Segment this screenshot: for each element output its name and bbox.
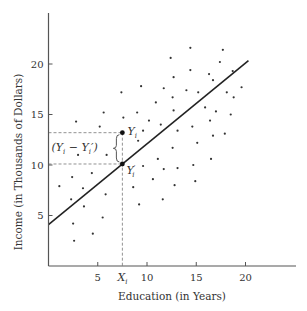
data-point: [58, 185, 60, 187]
y-tick-label: 10: [31, 160, 44, 171]
data-point: [176, 130, 178, 132]
data-point: [160, 124, 162, 126]
data-point: [155, 101, 157, 103]
data-point: [163, 87, 165, 89]
data-point: [82, 187, 84, 189]
data-point: [91, 172, 93, 174]
data-point: [212, 79, 214, 81]
data-point: [99, 126, 101, 128]
data-point: [83, 205, 85, 207]
x-tick-label: 15: [190, 272, 203, 283]
data-point: [210, 158, 212, 160]
data-point: [132, 186, 134, 188]
observed-label: Yi: [127, 125, 137, 140]
data-point: [172, 76, 174, 78]
data-point: [136, 111, 138, 113]
data-point: [122, 116, 124, 118]
residual-label: (Yi − Yi′): [52, 141, 98, 156]
observed-point: [120, 130, 125, 135]
data-point: [219, 61, 221, 63]
y-tick-label: 15: [31, 109, 44, 120]
data-point: [215, 110, 217, 112]
data-point: [137, 140, 139, 142]
data-point: [71, 176, 73, 178]
data-point: [142, 130, 144, 132]
data-point: [240, 86, 242, 88]
residual-annotation: Yi Y′i (Yi − Yi′) Xi: [52, 125, 137, 286]
x-tick-label: 20: [239, 272, 252, 283]
data-point: [157, 158, 159, 160]
data-point: [208, 73, 210, 75]
scatter-chart: 5101520 5101520 Education (in Years) Inc…: [0, 0, 307, 311]
data-point: [152, 178, 154, 180]
data-point: [172, 109, 174, 111]
data-point: [140, 85, 142, 87]
data-point: [185, 89, 187, 91]
x-axis-title: Education (in Years): [118, 290, 226, 302]
data-point: [222, 49, 224, 51]
data-point: [172, 147, 174, 149]
predicted-label: Y′i: [126, 164, 135, 179]
data-point: [138, 203, 140, 205]
x-tick-label: 5: [95, 272, 101, 283]
data-point: [73, 240, 75, 242]
y-tick-label: 5: [37, 210, 43, 221]
data-point: [106, 154, 108, 156]
predicted-point: [120, 162, 125, 167]
data-point: [120, 91, 122, 93]
y-tick-label: 20: [31, 59, 44, 70]
data-point: [162, 198, 164, 200]
data-point: [142, 165, 144, 167]
data-point: [176, 167, 178, 169]
y-ticks: 5101520: [31, 59, 53, 222]
data-point: [204, 106, 206, 108]
data-point: [196, 142, 198, 144]
data-point: [103, 111, 105, 113]
data-point: [192, 164, 194, 166]
x-i-tick-label: Xi: [116, 271, 127, 286]
data-point: [189, 69, 191, 71]
y-axis-title: Income (in Thousands of Dollars): [12, 74, 24, 251]
data-point: [212, 135, 214, 137]
data-point: [75, 120, 77, 122]
data-point: [92, 233, 94, 235]
data-point: [163, 168, 165, 170]
data-point: [194, 180, 196, 182]
data-point: [224, 133, 226, 135]
data-point: [170, 57, 172, 59]
data-point: [191, 126, 193, 128]
data-point: [209, 119, 211, 121]
data-point: [230, 113, 232, 115]
data-point: [233, 96, 235, 98]
x-tick-label: 10: [141, 272, 154, 283]
data-point: [197, 91, 199, 93]
data-point: [189, 47, 191, 49]
data-point: [105, 193, 107, 195]
data-point: [173, 184, 175, 186]
data-point: [226, 91, 228, 93]
data-point: [72, 222, 74, 224]
data-point: [148, 119, 150, 121]
data-point: [172, 96, 174, 98]
data-point: [70, 198, 72, 200]
data-point: [102, 216, 104, 218]
residual-brace: [113, 135, 119, 162]
